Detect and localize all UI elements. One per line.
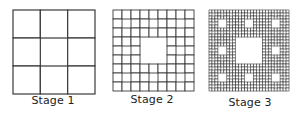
stage-3-label: Stage 3: [229, 97, 272, 109]
stage-1-carpet: [12, 9, 96, 95]
stage-1-label: Stage 1: [32, 95, 75, 107]
stage-2-carpet: [112, 9, 195, 92]
stage-2-label: Stage 2: [131, 94, 174, 106]
stage-3-carpet: [208, 9, 290, 92]
